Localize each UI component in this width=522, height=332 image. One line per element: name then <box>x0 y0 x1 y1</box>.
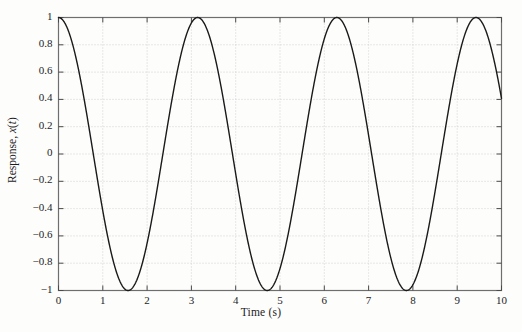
x-tick-label: 7 <box>357 294 381 306</box>
x-tick-label: 8 <box>401 294 425 306</box>
y-axis-label-paren-open: ( <box>6 124 18 128</box>
x-axis-label: Time (s) <box>0 306 522 318</box>
x-tick-label: 0 <box>47 294 71 306</box>
y-axis-label-container: Response, x(t) <box>0 0 24 300</box>
x-tick-label: 3 <box>179 294 203 306</box>
x-tick-label: 2 <box>135 294 159 306</box>
x-tick-label: 1 <box>91 294 115 306</box>
x-tick-label: 10 <box>490 294 514 306</box>
y-axis-label-variable: x <box>6 128 18 133</box>
y-axis-label-time-variable: t <box>6 121 18 124</box>
y-axis-label-paren-close: ) <box>6 117 18 121</box>
y-axis-label-prefix: Response, <box>6 133 18 183</box>
plot-area <box>0 0 522 332</box>
x-tick-label: 6 <box>312 294 336 306</box>
x-tick-label: 4 <box>224 294 248 306</box>
y-axis-label: Response, x(t) <box>6 117 18 183</box>
x-tick-label: 5 <box>268 294 292 306</box>
x-tick-label: 9 <box>445 294 469 306</box>
figure-canvas: 10.80.60.40.20−0.2−0.4−0.6−0.8−1 0123456… <box>0 0 522 332</box>
